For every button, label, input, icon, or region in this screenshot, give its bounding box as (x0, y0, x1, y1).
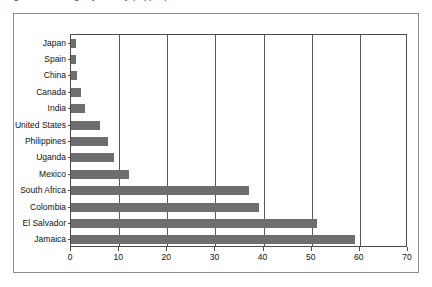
bar-row: Jamaica (71, 232, 406, 248)
bar-row: Japan (71, 35, 406, 51)
y-axis-tick-label: Colombia (0, 203, 71, 212)
y-axis-tick-label: Canada (0, 88, 71, 97)
bar-japan (71, 39, 76, 48)
bar-row: United States (71, 117, 406, 133)
x-axis-tick-label-0: 0 (68, 252, 73, 263)
clipped-caption: Figure: Percentage by country (clipped) (0, 0, 432, 9)
bar-uganda (71, 153, 114, 162)
x-axis-tick-label-20: 20 (162, 252, 171, 263)
x-axis-tick-label-40: 40 (258, 252, 267, 263)
x-axis-tick-20 (166, 247, 167, 251)
y-axis-tick-label: Uganda (0, 153, 71, 162)
bar-spain (71, 55, 76, 64)
y-axis-tick-label: Japan (0, 39, 71, 48)
x-axis-tick-0 (70, 247, 71, 251)
x-axis-tick-label-70: 70 (402, 252, 411, 263)
bar-row: Spain (71, 51, 406, 67)
x-axis-tick-label-30: 30 (210, 252, 219, 263)
bar-row: Mexico (71, 166, 406, 182)
bar-colombia (71, 203, 259, 212)
x-axis-tick-30 (214, 247, 215, 251)
bar-jamaica (71, 235, 355, 244)
bar-el-salvador (71, 219, 317, 228)
bar-row: South Africa (71, 182, 406, 198)
bar-canada (71, 88, 81, 97)
y-axis-tick-label: China (0, 71, 71, 80)
y-axis-tick-label: Spain (0, 55, 71, 64)
y-axis-tick-label: United States (0, 121, 71, 130)
bar-row: Uganda (71, 150, 406, 166)
bar-row: India (71, 101, 406, 117)
x-axis-tick-50 (311, 247, 312, 251)
x-axis-tick-label-50: 50 (306, 252, 315, 263)
bar-row: El Salvador (71, 215, 406, 231)
bar-china (71, 71, 77, 80)
plot-area: JapanSpainChinaCanadaIndiaUnited StatesP… (70, 34, 407, 247)
y-axis-tick-label: El Salvador (0, 219, 71, 228)
bar-row: Canada (71, 84, 406, 100)
bar-row: Colombia (71, 199, 406, 215)
y-axis-tick-label: Mexico (0, 170, 71, 179)
bar-chart: JapanSpainChinaCanadaIndiaUnited StatesP… (14, 14, 420, 274)
bar-south-africa (71, 186, 249, 195)
bar-mexico (71, 170, 129, 179)
y-axis-tick-label: South Africa (0, 186, 71, 195)
figure-frame: JapanSpainChinaCanadaIndiaUnited StatesP… (13, 13, 419, 273)
y-axis-tick-label: Philippines (0, 137, 71, 146)
bar-united-states (71, 121, 100, 130)
bar-india (71, 104, 85, 113)
bar-row: China (71, 68, 406, 84)
x-axis-tick-40 (263, 247, 264, 251)
x-axis-tick-labels: 010203040506070 (70, 252, 407, 266)
y-axis-tick-label: India (0, 104, 71, 113)
x-axis-tick-10 (118, 247, 119, 251)
clipped-caption-text: Figure: Percentage by country (clipped) (6, 0, 167, 1)
bars-layer: JapanSpainChinaCanadaIndiaUnited StatesP… (71, 35, 406, 246)
x-axis-tick-60 (359, 247, 360, 251)
x-axis-tick-label-60: 60 (354, 252, 363, 263)
bar-row: Philippines (71, 133, 406, 149)
x-axis-tick-70 (407, 247, 408, 251)
bar-philippines (71, 137, 108, 146)
y-axis-tick-label: Jamaica (0, 235, 71, 244)
x-axis-tick-label-10: 10 (113, 252, 122, 263)
